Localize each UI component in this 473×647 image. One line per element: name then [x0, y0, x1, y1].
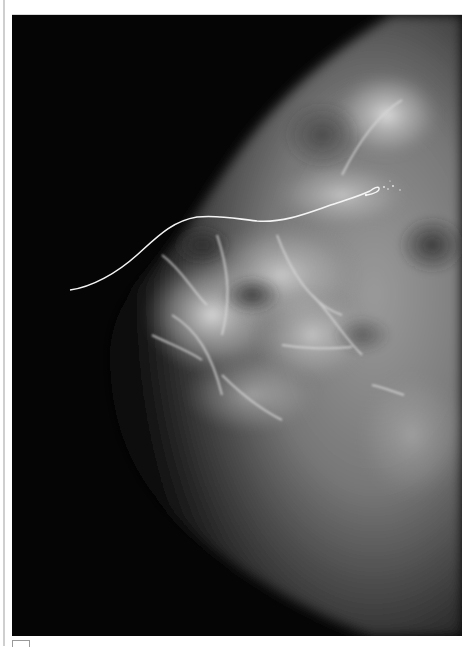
corner-mark — [12, 640, 30, 647]
mammogram-image — [12, 14, 462, 636]
page-edge-line — [3, 0, 5, 646]
mammogram-rendering — [12, 15, 462, 636]
